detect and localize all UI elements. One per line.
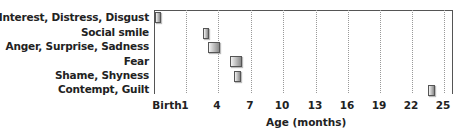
bar-shame-shyness bbox=[234, 71, 241, 82]
bar-anger-surprise-sadness bbox=[208, 42, 220, 53]
x-tick-label: 7 bbox=[246, 99, 253, 111]
gridline bbox=[380, 10, 381, 93]
gridline bbox=[348, 10, 349, 93]
x-axis-title: Age (months) bbox=[266, 116, 346, 128]
gridline bbox=[186, 10, 187, 93]
x-tick-label: Birth bbox=[152, 99, 181, 111]
gridline bbox=[251, 10, 252, 93]
gridline bbox=[412, 10, 413, 93]
x-tick-label: 16 bbox=[340, 99, 355, 111]
x-tick-label: 4 bbox=[213, 99, 220, 111]
gridline bbox=[444, 10, 445, 93]
gridline bbox=[316, 10, 317, 93]
row-label: Interest, Distress, Disgust bbox=[0, 11, 149, 23]
bar-social-smile bbox=[203, 28, 209, 39]
row-label: Fear bbox=[124, 55, 149, 67]
bar-interest-distress-disgust bbox=[155, 12, 161, 23]
x-tick-label: 1 bbox=[181, 99, 188, 111]
row-label: Shame, Shyness bbox=[55, 69, 149, 81]
bar-contempt-guilt bbox=[428, 85, 435, 96]
gridline bbox=[283, 10, 284, 93]
row-label: Contempt, Guilt bbox=[58, 83, 149, 95]
x-tick-label: 19 bbox=[372, 99, 387, 111]
x-tick-label: 13 bbox=[308, 99, 323, 111]
row-label: Social smile bbox=[81, 26, 149, 38]
row-label: Anger, Surprise, Sadness bbox=[5, 40, 149, 52]
bar-fear bbox=[230, 56, 242, 67]
x-tick-label: 22 bbox=[404, 99, 419, 111]
x-tick-label: 10 bbox=[275, 99, 290, 111]
plot-area bbox=[154, 10, 453, 94]
x-tick-label: 25 bbox=[436, 99, 451, 111]
